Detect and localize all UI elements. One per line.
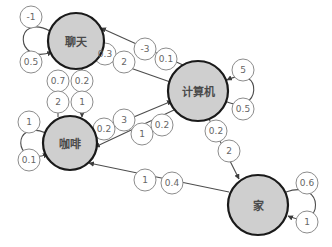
edge-weight-bubble xyxy=(218,140,240,162)
edge-weight-bubble xyxy=(205,120,227,142)
edge-weight-bubble xyxy=(113,51,135,73)
state-node-computer[interactable] xyxy=(168,61,228,121)
edge-weight-bubble xyxy=(47,70,69,92)
edge-weight-bubble xyxy=(20,51,42,73)
edge-weight-bubble xyxy=(71,91,93,113)
edge-weight-bubble xyxy=(134,38,156,60)
state-node-home[interactable] xyxy=(228,175,288,235)
edge-weight-bubble xyxy=(20,6,42,28)
edge-home-to-coffee xyxy=(89,163,229,192)
diagram-canvas: -10.510.150.50.610.32-30.10.720.210.2310… xyxy=(0,0,332,247)
edge-weight-bubble xyxy=(232,59,254,81)
graph-svg xyxy=(0,0,332,247)
edge-weight-bubble xyxy=(71,70,93,92)
edge-weight-bubble xyxy=(151,114,173,136)
edge-weight-bubble xyxy=(134,169,156,191)
state-node-coffee[interactable] xyxy=(43,116,97,170)
edge-weight-bubble xyxy=(47,91,69,113)
edge-weight-bubble xyxy=(18,149,40,171)
state-node-chat[interactable] xyxy=(48,13,104,69)
edge-weight-bubble xyxy=(113,109,135,131)
edge-weight-bubble xyxy=(232,98,254,120)
edge-weight-bubble xyxy=(155,48,177,70)
edge-weight-bubble xyxy=(296,172,318,194)
edge-weight-bubble xyxy=(18,111,40,133)
edge-weight-bubble xyxy=(161,172,183,194)
edge-weight-bubble xyxy=(296,211,318,233)
edge-weight-bubble xyxy=(131,123,153,145)
